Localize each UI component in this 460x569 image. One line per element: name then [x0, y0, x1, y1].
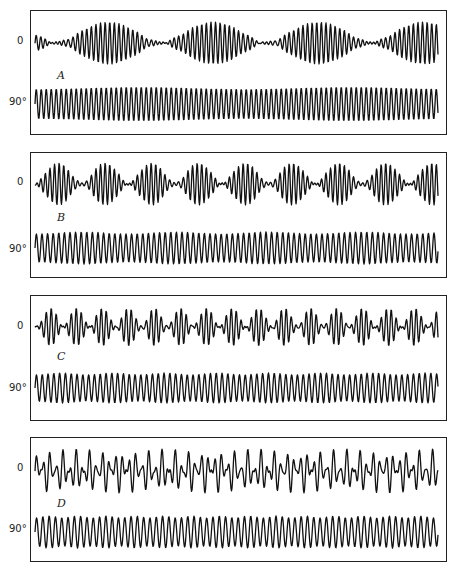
ninety-degree-trace: [35, 516, 438, 548]
zero-degree-trace: [35, 449, 438, 493]
zero-degree-trace: [35, 163, 438, 205]
panel-b-traces: [31, 153, 444, 275]
panel-b-zero-label: 0: [17, 176, 23, 187]
panel-d-zero-label: 0: [17, 462, 23, 473]
panel-d-letter: D: [57, 497, 66, 510]
panel-a-traces: [31, 11, 444, 132]
zero-degree-trace: [35, 309, 438, 345]
panel-a-ninety-label: 90°: [9, 96, 27, 107]
ninety-degree-trace: [35, 232, 438, 264]
panel-c-letter: C: [57, 350, 65, 363]
zero-degree-trace: [35, 22, 438, 64]
panel-b-ninety-label: 90°: [9, 243, 27, 254]
panel-d-traces: [31, 438, 444, 559]
panel-a: [30, 10, 447, 135]
panel-b: [30, 152, 447, 278]
ninety-degree-trace: [35, 373, 438, 403]
panel-c-ninety-label: 90°: [9, 382, 27, 393]
panel-c-traces: [31, 296, 444, 418]
ninety-degree-trace: [35, 88, 438, 120]
panel-a-letter: A: [57, 69, 65, 82]
panel-b-letter: B: [57, 211, 65, 224]
panel-c: [30, 295, 447, 421]
panel-d-ninety-label: 90°: [9, 523, 27, 534]
panel-c-zero-label: 0: [17, 320, 23, 331]
panel-d: [30, 437, 447, 562]
panel-a-zero-label: 0: [17, 35, 23, 46]
